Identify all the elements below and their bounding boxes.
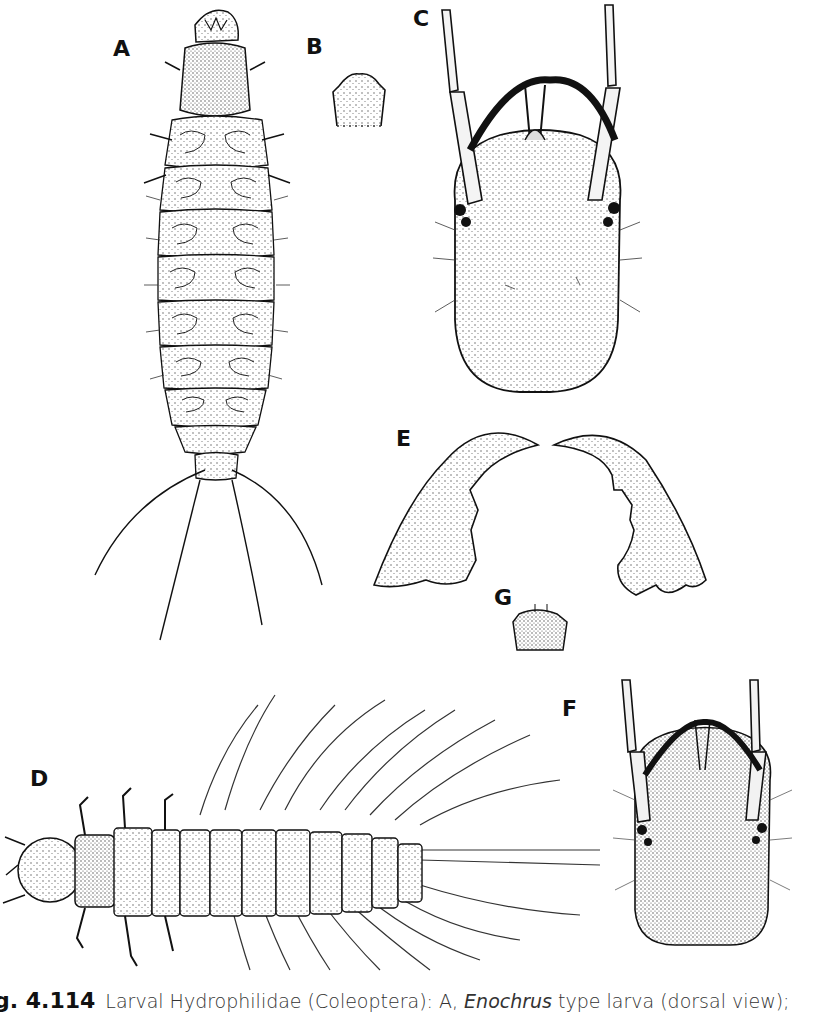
caption-genus: Enochrus <box>464 990 552 1012</box>
larva-lateral-illustration <box>0 640 600 980</box>
head-capsule-c-illustration <box>420 0 660 400</box>
mandibles-e-illustration <box>366 420 726 600</box>
labrum-b-illustration <box>325 68 395 138</box>
caption-text-start: Larval Hydrophilidae (Coleoptera): A, <box>105 990 464 1012</box>
caption-text-end: type larva (dorsal view); <box>552 990 790 1012</box>
figure-number: g. 4.114 <box>0 988 95 1013</box>
head-capsule-f-illustration <box>600 660 800 950</box>
figure-caption: g. 4.114Larval Hydrophilidae (Coleoptera… <box>0 988 790 1013</box>
